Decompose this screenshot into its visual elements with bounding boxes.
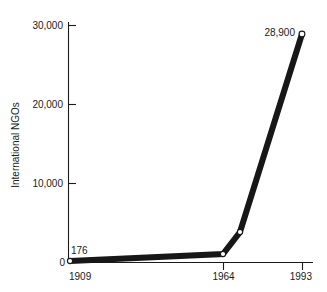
data-label-176: 176 — [71, 245, 88, 256]
data-series-line — [70, 34, 302, 261]
data-label-28900: 28,900 — [264, 27, 295, 38]
ngo-growth-chart: 30,000 20,000 10,000 0 1909 1964 1993 In… — [0, 0, 327, 292]
x-tick-label-1909: 1909 — [69, 271, 92, 282]
y-axis-title: International NGOs — [10, 102, 21, 188]
y-tick-label-0: 0 — [59, 257, 65, 268]
data-point-1970 — [237, 229, 242, 234]
data-point-1909 — [67, 258, 72, 263]
data-point-1993 — [299, 31, 305, 37]
y-tick-label-30000: 30,000 — [32, 20, 63, 31]
chart-plot-area: 30,000 20,000 10,000 0 1909 1964 1993 In… — [0, 0, 327, 292]
y-tick-label-20000: 20,000 — [32, 99, 63, 110]
data-point-1964 — [220, 251, 225, 256]
x-tick-label-1993: 1993 — [290, 271, 313, 282]
x-tick-label-1964: 1964 — [212, 271, 235, 282]
y-tick-label-10000: 10,000 — [32, 178, 63, 189]
